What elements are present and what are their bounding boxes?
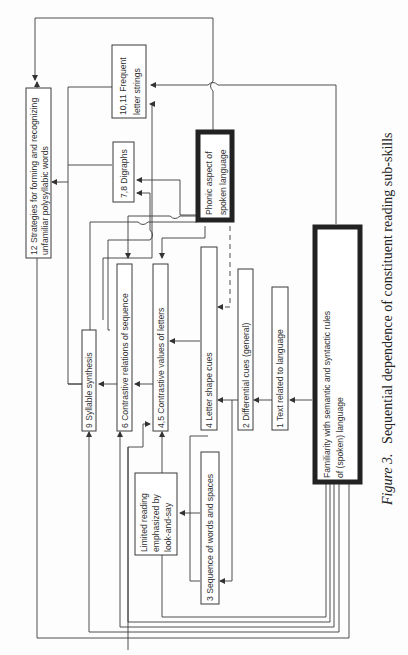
node-limited-line3: look-and-say [163, 502, 173, 552]
node-phonic-line2: spoken language [218, 149, 228, 215]
node-2-differential-cues: 2 Differential cues (general) [238, 269, 253, 430]
edge-2-to-3 [220, 400, 232, 581]
node-familiarity-line2: of (spoken) language [335, 397, 345, 478]
node-limited-line1: Limited reading [139, 493, 149, 552]
node-limited-line2: emphasized by [151, 493, 161, 552]
edge-phonic-to-78 [137, 180, 197, 215]
node-1011-line2: letter strings [132, 68, 142, 115]
caption-prefix: Figure 3. [380, 453, 395, 506]
caption-text: Sequential dependence of constituent rea… [380, 132, 395, 443]
node-12-strategies: 12 Strategies for forming and recognizin… [26, 88, 51, 258]
node-45-line1: 4,5 Contrastive values of letters [156, 308, 166, 428]
node-1-line1: 1 Text related to language [275, 329, 285, 428]
node-78-line1: 7,8 Digraphs [119, 149, 129, 198]
figure-caption: Figure 3. Sequential dependence of const… [380, 132, 395, 506]
node-6-contrastive-sequence: 6 Contrastive relations of sequence [117, 264, 132, 431]
node-12-line1: 12 Strategies for forming and recognizin… [29, 98, 39, 255]
node-4-letter-shape-cues: 4 Letter shape cues [201, 247, 217, 430]
node-phonic-line1: Phonic aspect of [204, 151, 214, 215]
node-9-syllable-synthesis: 9 Syllable synthesis [82, 330, 96, 431]
node-6-line1: 6 Contrastive relations of sequence [120, 293, 130, 428]
edge-phonic-to-45 [162, 226, 205, 258]
node-3-line1: 3 Sequence of words and spaces [205, 474, 215, 601]
node-phonic-aspect: Phonic aspect of spoken language [198, 132, 232, 220]
edge-phonic-to-4-dashed [218, 226, 230, 307]
svg-text:Figure 3. Sequential dep: Figure 3. Sequential dependence of const… [380, 132, 395, 506]
node-1-text-related: 1 Text related to language [272, 287, 288, 430]
diagram-canvas: 12 Strategies for forming and recognizin… [0, 0, 408, 655]
node-familiarity: Familiarity with semantic and syntactic … [315, 227, 360, 482]
node-limited-reading: Limited reading emphasized by look-and-s… [135, 473, 177, 555]
node-10-11-frequent-letter-strings: 10,11 Frequent letter strings [112, 45, 146, 118]
node-4-line1: 4 Letter shape cues [204, 353, 214, 429]
node-3-sequence-words: 3 Sequence of words and spaces [201, 452, 219, 604]
node-4-5-contrastive-letters: 4,5 Contrastive values of letters [153, 264, 168, 431]
node-2-line1: 2 Differential cues (general) [241, 322, 251, 428]
node-12-line2: unfamiliar polysyllabic words [40, 146, 50, 255]
edge-familiarity-to-1011 [151, 83, 336, 225]
diagram-svg: 12 Strategies for forming and recognizin… [0, 0, 408, 655]
node-familiarity-line1: Familiarity with semantic and syntactic … [322, 311, 332, 478]
node-1011-line1: 10,11 Frequent [118, 57, 128, 115]
edge-fam-to-limited [162, 484, 326, 617]
node-7-8-digraphs: 7,8 Digraphs [113, 142, 134, 202]
node-9-line1: 9 Syllable synthesis [84, 353, 94, 428]
